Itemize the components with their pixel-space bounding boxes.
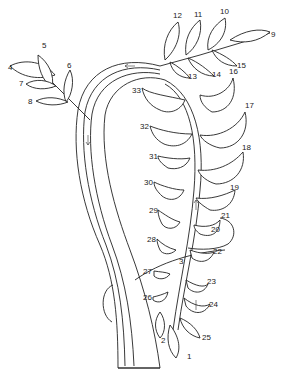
label-31: 31 <box>149 152 158 161</box>
label-11: 11 <box>194 10 203 19</box>
label-24: 24 <box>209 300 218 309</box>
label-29: 29 <box>149 206 158 215</box>
plant-diagram: 1 2 3 4 5 6 7 8 9 10 11 12 13 14 15 16 1… <box>0 0 285 383</box>
label-19: 19 <box>230 183 239 192</box>
label-20: 20 <box>211 225 220 234</box>
label-28: 28 <box>147 235 156 244</box>
number-labels: 1 2 3 4 5 6 7 8 9 10 11 12 13 14 15 16 1… <box>8 7 276 361</box>
label-10: 10 <box>220 7 229 16</box>
label-26: 26 <box>143 293 152 302</box>
label-13: 13 <box>188 72 197 81</box>
label-1: 1 <box>187 352 192 361</box>
label-7: 7 <box>19 79 24 88</box>
label-21: 21 <box>221 211 230 220</box>
label-5: 5 <box>42 41 47 50</box>
label-25: 25 <box>202 333 211 342</box>
label-4: 4 <box>8 63 13 72</box>
label-30: 30 <box>144 178 153 187</box>
label-12: 12 <box>173 11 182 20</box>
label-16: 16 <box>229 67 238 76</box>
label-22: 22 <box>213 247 222 256</box>
label-32: 32 <box>140 122 149 131</box>
label-17: 17 <box>245 101 254 110</box>
main-stem <box>76 63 225 368</box>
label-33: 33 <box>132 86 141 95</box>
label-6: 6 <box>67 61 72 70</box>
top-branch <box>160 18 270 78</box>
label-15: 15 <box>237 61 246 70</box>
label-23: 23 <box>207 277 216 286</box>
label-8: 8 <box>28 97 33 106</box>
label-3: 3 <box>179 257 184 266</box>
label-9: 9 <box>271 30 276 39</box>
label-2: 2 <box>161 336 166 345</box>
label-14: 14 <box>212 70 221 79</box>
label-18: 18 <box>242 143 251 152</box>
label-27: 27 <box>143 267 152 276</box>
